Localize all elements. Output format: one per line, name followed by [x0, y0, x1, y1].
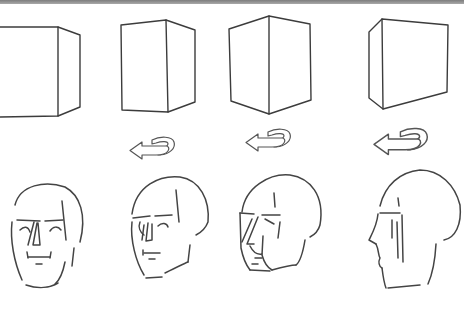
head-stroke — [176, 190, 179, 222]
head-stroke — [278, 222, 280, 238]
head-stroke — [33, 223, 40, 245]
head-stroke — [376, 244, 382, 268]
head-stroke — [369, 214, 378, 244]
head-stroke — [72, 248, 74, 266]
head-stroke — [398, 198, 399, 206]
box-2-drawing — [121, 20, 195, 112]
head-stroke — [146, 277, 162, 278]
head-stroke — [388, 285, 420, 288]
head-stroke — [20, 227, 30, 232]
heads-row — [11, 170, 460, 288]
head-front-drawing — [11, 184, 82, 287]
head-stroke — [382, 268, 386, 288]
head-stroke — [272, 265, 296, 270]
box-edge — [0, 27, 58, 117]
head-stroke — [250, 246, 262, 254]
box-edge — [369, 19, 448, 109]
head-stroke — [165, 262, 188, 273]
head-three-quarter-drawing — [132, 177, 209, 278]
head-stroke — [11, 222, 22, 280]
head-stroke — [242, 219, 252, 242]
head-stroke — [262, 236, 272, 270]
head-stroke — [50, 227, 61, 231]
boxes-row — [0, 16, 448, 117]
box-3-drawing — [229, 16, 311, 114]
head-stroke — [296, 240, 305, 265]
head-stroke — [158, 223, 168, 227]
head-stroke — [17, 220, 40, 221]
head-stroke — [45, 220, 63, 221]
box-edge — [121, 20, 168, 112]
rotate-left-arrow-icon — [130, 137, 174, 159]
box-1-drawing — [0, 27, 80, 117]
head-stroke — [132, 222, 144, 275]
head-stroke — [428, 244, 436, 284]
head-profile-drawing — [369, 170, 460, 288]
head-stroke — [188, 245, 190, 262]
head-stroke — [27, 252, 28, 258]
box-edge — [58, 27, 80, 116]
rotation-arrows-row — [130, 128, 427, 159]
head-stroke — [155, 215, 172, 216]
box-edge — [229, 16, 311, 114]
head-stroke — [240, 213, 254, 214]
head-stroke — [133, 216, 150, 218]
head-stroke — [55, 262, 65, 284]
rotate-left-arrow-icon — [246, 129, 290, 151]
head-stroke — [265, 219, 274, 224]
illustration-canvas — [0, 0, 464, 325]
box-edge — [166, 20, 195, 112]
head-stroke — [247, 217, 258, 244]
box-4-drawing — [369, 19, 448, 109]
head-stroke — [50, 252, 51, 258]
head-stroke — [274, 193, 275, 207]
head-stroke — [26, 283, 58, 287]
head-stroke — [397, 222, 398, 258]
head-stroke — [250, 270, 270, 271]
head-stroke — [146, 223, 152, 241]
head-stroke — [15, 184, 83, 242]
head-stroke — [402, 215, 403, 262]
rotate-left-arrow-icon — [374, 128, 427, 154]
box-edge — [382, 19, 383, 109]
head-turned-drawing — [240, 175, 321, 271]
